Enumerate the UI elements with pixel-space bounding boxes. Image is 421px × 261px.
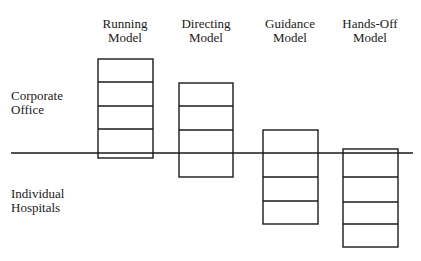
stack-running-model xyxy=(98,59,153,158)
diagram-canvas xyxy=(0,0,421,261)
stack-hands-off-model xyxy=(343,149,398,247)
stack-directing-model xyxy=(179,83,233,177)
stack-guidance-model xyxy=(263,130,318,224)
